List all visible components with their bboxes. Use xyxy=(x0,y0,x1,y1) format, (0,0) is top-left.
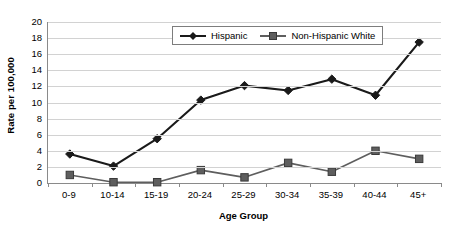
y-axis-tick: 12 xyxy=(31,82,42,92)
gridline xyxy=(48,103,441,104)
data-point-marker xyxy=(153,178,160,185)
y-axis-tick: 20 xyxy=(31,17,42,27)
y-axis-tick: 0 xyxy=(37,178,42,188)
square-marker-icon xyxy=(260,30,286,41)
gridline xyxy=(48,135,441,136)
x-axis-tick-mark xyxy=(441,183,442,187)
gridline xyxy=(48,151,441,152)
x-axis-tick: 15-19 xyxy=(144,190,168,200)
x-axis-tick-mark xyxy=(266,183,267,187)
data-point-marker xyxy=(415,155,422,162)
gridline xyxy=(48,70,441,71)
y-axis-tick: 10 xyxy=(31,98,42,108)
legend-item-hispanic[interactable]: Hispanic xyxy=(180,30,247,41)
series-line xyxy=(70,42,419,166)
y-axis-tick: 18 xyxy=(31,33,42,43)
gridline xyxy=(48,86,441,87)
gridline xyxy=(48,22,441,23)
x-axis-tick: 40-44 xyxy=(362,190,386,200)
diamond-marker-icon xyxy=(180,30,206,41)
x-axis-tick-mark xyxy=(135,183,136,187)
x-axis-tick-mark xyxy=(223,183,224,187)
x-axis-tick: 45+ xyxy=(410,190,426,200)
legend-label: Hispanic xyxy=(211,31,247,41)
data-point-marker xyxy=(284,86,292,94)
x-axis-tick-mark xyxy=(310,183,311,187)
y-axis-tick: 14 xyxy=(31,66,42,76)
legend-marker xyxy=(189,32,197,36)
y-axis-tick: 8 xyxy=(37,114,42,124)
gridline xyxy=(48,119,441,120)
line-chart: Rate per 100,000 20181614121086420 0-910… xyxy=(0,0,457,236)
y-axis-tick: 4 xyxy=(37,146,42,156)
y-axis-tick-labels: 20181614121086420 xyxy=(20,16,46,188)
x-axis-tick: 10-14 xyxy=(100,190,124,200)
gridline xyxy=(48,167,441,168)
data-point-marker xyxy=(110,178,117,185)
gridline xyxy=(48,54,441,55)
x-axis-tick-mark xyxy=(48,183,49,187)
plot-area xyxy=(47,22,441,184)
x-axis-tick-mark xyxy=(354,183,355,187)
data-point-marker xyxy=(241,174,248,181)
x-axis-tick-mark xyxy=(92,183,93,187)
y-axis-tick: 2 xyxy=(37,162,42,172)
x-axis-tick: 25-29 xyxy=(231,190,255,200)
y-axis-title: Rate per 100,000 xyxy=(0,0,20,190)
y-axis-tick: 6 xyxy=(37,130,42,140)
data-point-marker xyxy=(328,75,336,83)
y-axis-tick: 16 xyxy=(31,49,42,59)
x-axis-tick: 30-34 xyxy=(275,190,299,200)
data-point-marker xyxy=(66,171,73,178)
chart-legend: HispanicNon-Hispanic White xyxy=(172,26,383,45)
x-axis-tick: 0-9 xyxy=(62,190,76,200)
legend-item-non-hispanic-white[interactable]: Non-Hispanic White xyxy=(260,30,375,41)
x-axis-tick: 35-39 xyxy=(319,190,343,200)
x-axis-tick-labels: 0-910-1415-1920-2425-2930-3435-3940-4445… xyxy=(47,190,440,206)
y-axis-title-label: Rate per 100,000 xyxy=(5,57,16,134)
legend-label: Non-Hispanic White xyxy=(291,31,375,41)
x-axis-title: Age Group xyxy=(47,210,440,221)
x-axis-tick-mark xyxy=(397,183,398,187)
x-axis-tick: 20-24 xyxy=(188,190,212,200)
data-point-marker xyxy=(328,168,335,175)
legend-marker xyxy=(269,32,277,40)
x-axis-tick-mark xyxy=(179,183,180,187)
data-point-marker xyxy=(284,159,291,166)
